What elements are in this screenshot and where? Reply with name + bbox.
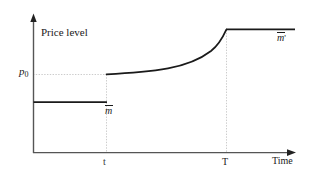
annotation-m-bar-prime: m' [277,33,286,43]
price-level-chart: Price level Time t T p0 m m' [0,0,311,179]
y-tick-label-p0: p0 [19,66,29,79]
annotation-m-bar: m [105,106,112,116]
y-axis-arrow-icon [30,14,36,23]
x-tick-label-t: t [103,157,106,167]
prime-mark: ' [284,33,286,43]
p0-subscript: 0 [25,70,29,79]
series-price-level-path [107,30,227,75]
x-tick-label-T: T [222,157,228,167]
y-axis-label: Price level [41,27,88,38]
x-axis-label: Time [272,156,293,166]
m-bar-text: m [105,106,112,116]
m-bar-prime-text: m [277,33,284,43]
